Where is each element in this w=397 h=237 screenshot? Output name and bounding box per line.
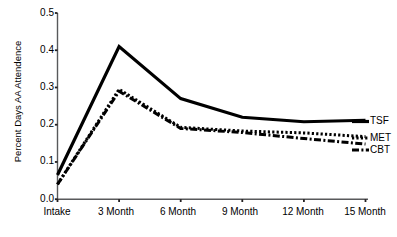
series-line-tsf — [58, 47, 366, 175]
series-line-met — [58, 89, 366, 184]
chart-container: Percent Days AA Attendence 0.5 0.4 0.3 0… — [0, 0, 397, 237]
series-lines — [58, 47, 366, 185]
plot-area — [0, 0, 397, 237]
axis-lines — [57, 13, 368, 200]
series-line-cbt — [58, 91, 366, 184]
